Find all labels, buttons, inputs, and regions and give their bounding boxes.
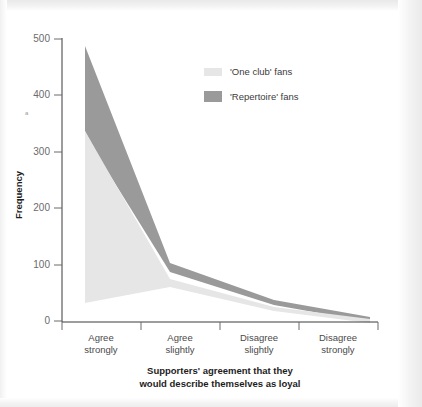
- page-edge-right-shading: [398, 0, 422, 407]
- y-tick-label-200: 200: [33, 202, 50, 213]
- x-label-agree-strongly-line1: Agree: [88, 332, 113, 343]
- legend-label-repertoire-fans: 'Repertoire' fans: [230, 91, 299, 102]
- legend-swatch-one-club-fans: [204, 68, 222, 76]
- x-axis-category-separators: [62, 322, 378, 330]
- y-tick-label-100: 100: [33, 259, 50, 270]
- x-label-disagree-strongly-line1: Disagree: [319, 332, 357, 343]
- y-tick-label-300: 300: [33, 146, 50, 157]
- page-background: 500 400 300 200 100 0 a Frequency Agree …: [0, 0, 422, 407]
- x-label-disagree-slightly-line2: slightly: [244, 344, 273, 355]
- x-label-disagree-strongly-line2: strongly: [321, 344, 355, 355]
- x-axis-category-labels: Agree strongly Agree slightly Disagree s…: [84, 332, 357, 355]
- y-tick-label-0: 0: [44, 315, 50, 326]
- legend-swatch-repertoire-fans: [204, 91, 222, 102]
- x-label-agree-slightly-line2: slightly: [165, 344, 194, 355]
- legend-label-one-club-fans: 'One club' fans: [230, 66, 292, 77]
- y-tick-label-400: 400: [33, 89, 50, 100]
- chart-svg: 500 400 300 200 100 0 a Frequency Agree …: [0, 0, 422, 407]
- x-label-agree-strongly-line2: strongly: [84, 344, 118, 355]
- chart-legend: 'One club' fans 'Repertoire' fans: [204, 66, 299, 102]
- y-axis-footnote-mark: a: [25, 110, 29, 116]
- y-tick-label-500: 500: [33, 33, 50, 44]
- x-axis-title-line1: Supporters' agreement that they: [147, 365, 294, 376]
- y-axis-title: Frequency: [13, 170, 24, 219]
- frequency-line-chart: 500 400 300 200 100 0 a Frequency Agree …: [0, 0, 422, 407]
- y-axis-ticks: [54, 39, 62, 321]
- x-axis-title-line2: would describe themselves as loyal: [138, 378, 300, 389]
- x-label-agree-slightly-line1: Agree: [167, 332, 192, 343]
- x-label-disagree-slightly-line1: Disagree: [240, 332, 278, 343]
